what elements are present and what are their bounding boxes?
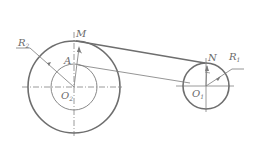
radius-R1-leader xyxy=(206,69,244,86)
label-R2: R2 xyxy=(17,37,30,49)
radius-R2-leader xyxy=(16,48,74,87)
label-A: A xyxy=(63,55,71,66)
label-O2: O2 xyxy=(61,90,73,102)
label-R1: R1 xyxy=(228,51,240,63)
label-M: M xyxy=(75,28,87,39)
label-O1: O1 xyxy=(192,88,204,100)
pulley-diagram: R2 M A O2 N R1 O1 xyxy=(0,0,254,147)
label-N: N xyxy=(207,52,218,63)
belt-line xyxy=(76,41,205,63)
line-A-to-O1 xyxy=(78,65,190,83)
radial-O2-M xyxy=(74,48,79,87)
